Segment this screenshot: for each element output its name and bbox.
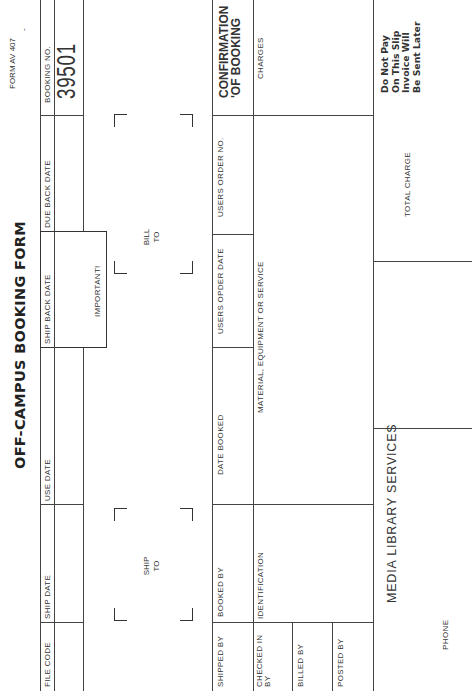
department-name: MEDIA LIBRARY SERVICES: [385, 424, 399, 603]
booked-by-label: BOOKED BY: [216, 567, 225, 617]
posted-by-field[interactable]: [346, 624, 372, 690]
posted-by-label: POSTED BY: [336, 639, 345, 688]
checked-in-by-field[interactable]: [274, 624, 291, 690]
phone-field[interactable]: [432, 436, 452, 616]
booked-by-field[interactable]: [226, 506, 252, 622]
identification-field[interactable]: [266, 506, 372, 622]
total-charge-label: TOTAL CHARGE: [403, 152, 412, 217]
users-order-date-label: USERS OPDER DATE: [216, 248, 225, 334]
material-field[interactable]: [266, 117, 372, 504]
file-code-label: FILE CODE: [43, 642, 52, 687]
grid-line: [54, 232, 55, 348]
grid-line: [292, 623, 293, 691]
due-back-date-label: DUE BACK DATE: [43, 160, 52, 228]
grid-line: [83, 348, 84, 691]
grid-line: [212, 504, 253, 505]
shipped-by-field[interactable]: [226, 624, 252, 690]
billed-by-field[interactable]: [306, 624, 331, 690]
confirmation-of-booking: CONFIRMATION 'OF BOOKING: [218, 6, 242, 98]
identification-label: IDENTIFICATION: [256, 552, 265, 619]
total-charge-field[interactable]: [415, 117, 465, 261]
grid-line: [212, 234, 253, 235]
date-booked-label: DATE BOOKED: [216, 415, 225, 476]
users-order-no-field[interactable]: [226, 117, 252, 234]
booking-no-label: BOOKING NO.: [43, 46, 52, 103]
important-note: IMPORTANT!: [93, 265, 102, 317]
grid-line: [212, 115, 253, 116]
form-number-mark: -: [19, 28, 28, 31]
page-title: OFF-CAMPUS BOOKING FORM: [12, 221, 28, 469]
users-order-no-label: USERS ORDER NO.: [216, 137, 225, 217]
use-date-label: USE DATE: [43, 459, 52, 501]
grid-line: [212, 622, 253, 623]
ship-back-date-field[interactable]: [56, 234, 82, 346]
grid-line: [253, 115, 373, 116]
phone-label: PHONE: [441, 620, 450, 650]
grid-line: [373, 0, 374, 262]
due-back-date-field[interactable]: [55, 117, 82, 231]
ship-to-field[interactable]: [114, 509, 192, 621]
booking-number: 39501: [52, 43, 81, 99]
grid-line: [83, 0, 84, 232]
ship-date-label: SHIP DATE: [43, 575, 52, 619]
grid-line: [373, 261, 472, 262]
grid-line: [253, 622, 373, 623]
date-booked-field[interactable]: [226, 349, 252, 504]
booking-form: OFF-CAMPUS BOOKING FORM FORM AV 407 - FI…: [0, 0, 472, 691]
grid-line: [40, 504, 83, 505]
grid-line: [40, 115, 83, 116]
users-order-date-field[interactable]: [226, 236, 252, 347]
charges-label: CHARGES: [256, 37, 265, 79]
grid-line: [212, 347, 253, 348]
checked-in-by-label: CHECKED IN BY: [256, 635, 272, 687]
billed-by-label: BILLED BY: [296, 644, 305, 687]
bill-to-field[interactable]: [114, 115, 192, 274]
grid-line: [253, 504, 373, 505]
shipped-by-label: SHIPPED BY: [216, 636, 225, 687]
grid-line: [40, 622, 83, 623]
ship-date-field[interactable]: [55, 506, 82, 622]
grid-line: [332, 623, 333, 691]
grid-line: [212, 0, 213, 691]
charges-field[interactable]: [266, 0, 372, 115]
payment-notice: Do Not Pay On This Slip Invoice Will Be …: [380, 22, 422, 93]
form-number: FORM AV 407: [8, 38, 17, 89]
ship-back-date-label: SHIP BACK DATE: [43, 274, 52, 344]
use-date-field[interactable]: [55, 349, 82, 504]
file-code-field[interactable]: [55, 624, 82, 690]
grid-line: [253, 0, 254, 691]
material-label: MATERIAL, EQUIPMENT OR SERVICE: [256, 261, 265, 413]
